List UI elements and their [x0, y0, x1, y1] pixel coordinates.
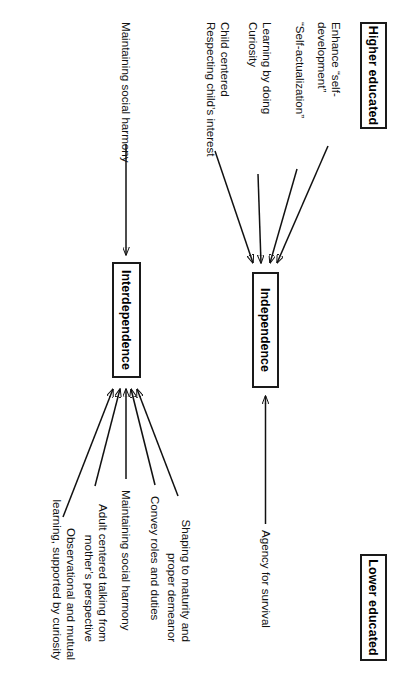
concept-box-interdependence: Interdependence	[112, 262, 141, 378]
group-label-higher-educated: Higher educated	[360, 22, 387, 129]
concept-box-independence: Independence	[252, 272, 279, 388]
note-maintaining-social-harmony-higher: Maintaining social harmony	[119, 22, 133, 172]
group-label-lower-educated: Lower educated	[360, 554, 387, 661]
note-adult-centered-talking: Adult centered talking from mother’s per…	[81, 450, 110, 642]
edge-learning-curiosity-to-independence	[258, 174, 261, 263]
note-shaping-to-maturity: Shaping to maturity and proper demeanor	[164, 460, 193, 642]
diagram-canvas: Higher educated Lower educated Independe…	[0, 0, 403, 689]
note-agency-for-survival: Agency for survival	[259, 530, 273, 680]
note-convey-roles-and-duties: Convey roles and duties	[148, 496, 162, 686]
note-self-actualization: “Self-actualization”	[293, 22, 307, 150]
rotated-figure-container: Higher educated Lower educated Independe…	[0, 0, 403, 689]
note-observational-mutual-learning: Observational and mutual learning, suppo…	[49, 440, 78, 660]
note-child-centered-respecting-interest: Child centered Respecting child’s intere…	[203, 22, 232, 172]
note-learning-by-doing-curiosity: Learning by doing Curiosity	[245, 22, 274, 150]
note-maintaining-social-harmony-lower: Maintaining social harmony	[119, 490, 133, 680]
edge-self-development-to-independence	[277, 146, 328, 263]
note-enhance-self-development: Enhance “self-development”	[314, 22, 343, 150]
